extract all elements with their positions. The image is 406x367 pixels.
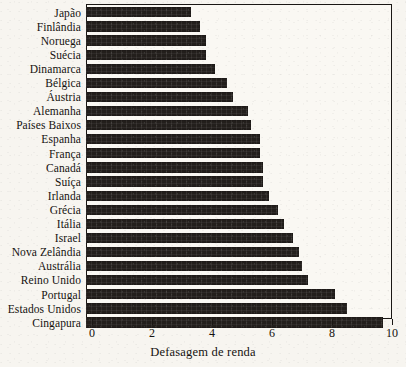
bar[interactable]	[86, 233, 293, 243]
x-tick-mark	[212, 319, 213, 325]
x-axis: 0246810	[86, 319, 392, 320]
x-tick-mark	[272, 319, 273, 325]
bar[interactable]	[86, 35, 206, 45]
bar-row[interactable]	[0, 48, 406, 62]
bar-row[interactable]	[0, 273, 406, 287]
x-tick-label: 4	[209, 326, 215, 341]
bar[interactable]	[86, 275, 308, 285]
bar-row[interactable]	[0, 189, 406, 203]
bar-row[interactable]	[0, 175, 406, 189]
bar[interactable]	[86, 148, 260, 158]
bar-row[interactable]	[0, 118, 406, 132]
x-tick-label: 8	[329, 326, 335, 341]
bar[interactable]	[86, 21, 200, 31]
bar-row[interactable]	[0, 62, 406, 76]
bar-chart-figure: JapãoFinlândiaNoruegaSuéciaDinamarcaBélg…	[0, 0, 406, 367]
bar-row[interactable]	[0, 302, 406, 316]
x-tick-label: 10	[386, 326, 398, 341]
bar[interactable]	[86, 289, 335, 299]
bar-row[interactable]	[0, 147, 406, 161]
bar-row[interactable]	[0, 161, 406, 175]
x-axis-title: Defasagem de renda	[0, 345, 406, 360]
bar[interactable]	[86, 106, 248, 116]
bar[interactable]	[86, 50, 206, 60]
bar[interactable]	[86, 261, 302, 271]
bar[interactable]	[86, 64, 215, 74]
bar-row[interactable]	[0, 6, 406, 20]
x-tick-label: 0	[89, 326, 95, 341]
bar[interactable]	[86, 176, 263, 186]
bar-row[interactable]	[0, 231, 406, 245]
bar[interactable]	[86, 219, 284, 229]
bar-row[interactable]	[0, 132, 406, 146]
x-tick-label: 2	[149, 326, 155, 341]
bar[interactable]	[86, 92, 233, 102]
bar-row[interactable]	[0, 20, 406, 34]
bar[interactable]	[86, 191, 269, 201]
bar[interactable]	[86, 78, 227, 88]
bar-row[interactable]	[0, 34, 406, 48]
bar-row[interactable]	[0, 90, 406, 104]
bar-row[interactable]	[0, 288, 406, 302]
bar[interactable]	[86, 120, 251, 130]
bar-row[interactable]	[0, 217, 406, 231]
bar-row[interactable]	[0, 104, 406, 118]
bar-row[interactable]	[0, 245, 406, 259]
x-tick-mark	[92, 319, 93, 325]
bar-row[interactable]	[0, 76, 406, 90]
bar-row[interactable]	[0, 316, 406, 330]
x-tick-label: 6	[269, 326, 275, 341]
bar-row[interactable]	[0, 259, 406, 273]
bar[interactable]	[86, 205, 278, 215]
bar-row[interactable]	[0, 203, 406, 217]
x-tick-mark	[332, 319, 333, 325]
bar[interactable]	[86, 134, 260, 144]
bar[interactable]	[86, 162, 263, 172]
bar[interactable]	[86, 247, 299, 257]
bar[interactable]	[86, 303, 347, 313]
bar[interactable]	[86, 7, 191, 17]
x-tick-mark	[392, 319, 393, 325]
x-tick-mark	[152, 319, 153, 325]
